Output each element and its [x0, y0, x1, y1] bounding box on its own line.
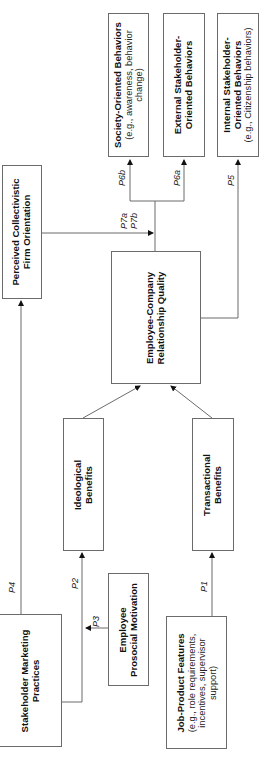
- label-p3: P3: [91, 616, 101, 627]
- label-p5: P5: [226, 175, 236, 186]
- transactional-benefits-box: Transactional Benefits: [192, 418, 234, 551]
- internal-stakeholder-behaviors-box: Internal Stakeholder- Oriented Behaviors…: [217, 13, 259, 157]
- box-title: Society-Oriented Behaviors: [113, 22, 124, 148]
- external-stakeholder-behaviors-box: External Stakeholder- Oriented Behaviors: [163, 13, 205, 157]
- label-p1: P1: [199, 581, 209, 592]
- employee-prosocial-motivation-box: Employee Prosocial Motivation: [108, 573, 149, 686]
- ideological-benefits-box: Ideological Benefits: [63, 418, 104, 551]
- label-p7b: P7b: [129, 213, 139, 229]
- job-product-features-box: Job-Product Features (e.g., role require…: [166, 616, 227, 749]
- label-p6b: P6b: [117, 170, 127, 186]
- arrow-transactional-ecrq: [171, 386, 212, 418]
- perceived-collectivistic-box: Perceived Collectivistic Firm Orientatio…: [2, 165, 42, 299]
- arrow-ideological-ecrq: [83, 386, 140, 418]
- label-p2: P2: [70, 578, 80, 589]
- society-oriented-behaviors-box: Society-Oriented Behaviors (e.g., awaren…: [108, 13, 149, 157]
- label-p6a: P6a: [172, 170, 182, 186]
- label-p7a: P7a: [119, 213, 129, 229]
- label-p4: P4: [7, 582, 17, 593]
- employee-company-relationship-box: Employee-Company Relationship Quality: [111, 251, 201, 384]
- arrow-p2: [62, 553, 82, 702]
- stakeholder-marketing-box: Stakeholder Marketing Practices: [0, 614, 62, 747]
